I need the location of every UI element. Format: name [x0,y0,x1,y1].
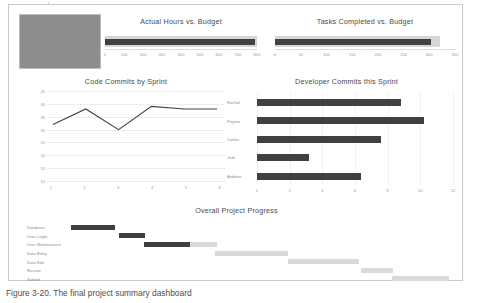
x-axis-code-commits: 1 2 3 4 5 6 [47,185,225,194]
actual-bar-actual-hours [105,39,255,45]
gantt-bar-database [71,225,115,230]
x-axis-tasks-completed: 0 50 100 150 200 250 300 350 [275,52,455,61]
gantt-bar-user-login [119,233,145,238]
gantt-label-user-maintenance: User Maintenance [27,242,69,247]
dev-bar-andrew [257,173,361,180]
gantt-progress-fill [119,233,145,238]
chart-tasks-completed: Tasks Completed vs. Budget 0 50 100 150 … [275,17,455,61]
x-axis-actual-hours: 0 100 200 300 400 500 600 700 800 [105,52,257,61]
chart-title-code-commits: Code Commits by Sprint [23,77,229,86]
gantt-progress-fill [144,242,191,247]
chart-title-tasks-completed: Tasks Completed vs. Budget [275,17,455,26]
gantt-bar-data-edit [288,259,359,264]
chart-developer-commits: Developer Commits this Sprint [239,77,454,86]
dev-label-rachel: Rachel [227,100,255,105]
dev-bar-carlos [257,136,381,143]
actual-bar-tasks [275,39,431,45]
chart-title-developer-commits: Developer Commits this Sprint [239,77,454,86]
plot-area-code-commits: 45 40 35 30 25 20 15 10 [47,91,225,181]
chart-overall-progress: Overall Project Progress [9,206,464,215]
dev-label-jodi: Jodi [227,155,255,160]
gantt-label-data-entry: Data Entry [27,251,69,256]
gantt-label-submit: Submit [27,276,69,281]
dev-label-andrew: Andrew [227,173,255,178]
x-axis-developer-commits: 0 2 4 6 8 10 12 [257,188,453,197]
gantt-label-review: Review [27,268,69,273]
line-series-code-commits [47,91,225,181]
gantt-bar-review [361,268,393,273]
dashboard-thumbnail-image [19,14,101,69]
dev-bar-rachel [257,99,401,106]
gantt-label-data-edit: Data Edit [27,259,69,264]
dashboard-page: Actual Hours vs. Budget 0 100 200 300 40… [8,4,463,281]
axis-line-actual-hours [105,49,257,50]
gantt-bar-submit [392,276,449,281]
dev-label-carlos: Carlos [227,137,255,142]
dev-bar-jodi [257,154,309,161]
chart-title-actual-hours: Actual Hours vs. Budget [105,17,257,26]
gantt-bar-user-maintenance [144,242,217,247]
gantt-label-database: Database [27,225,69,230]
dev-label-peyton: Peyton [227,118,255,123]
gantt-bar-data-entry [215,251,288,256]
chart-actual-hours: Actual Hours vs. Budget 0 100 200 300 40… [105,17,257,61]
chart-title-overall-progress: Overall Project Progress [9,206,464,215]
gantt-label-user-login: User Login [27,233,69,238]
axis-line-tasks [275,49,455,50]
dev-bar-peyton [257,117,424,124]
plot-area-overall-progress: DatabaseUser LoginUser MaintenanceData E… [71,223,455,283]
chart-code-commits: Code Commits by Sprint [23,77,229,86]
gantt-progress-fill [71,225,115,230]
plot-area-developer-commits: Rachel Peyton Carlos Jodi Andrew [257,93,453,185]
figure-caption: Figure 3-20. The final project summary d… [6,288,476,298]
